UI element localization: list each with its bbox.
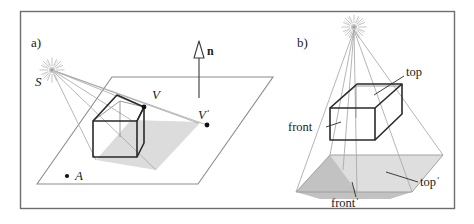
arrow-up-icon-a — [194, 41, 204, 98]
panel-b — [296, 15, 443, 200]
sun-star-icon-b — [342, 15, 367, 40]
vertex-point-Vprime — [205, 123, 210, 128]
wireframe-cube-icon-b — [330, 84, 402, 140]
figure-canvas — [0, 0, 474, 224]
plane-point-A — [65, 174, 69, 178]
vertex-point-V — [142, 105, 147, 110]
sun-star-icon-a — [40, 58, 65, 83]
panel-a — [37, 41, 273, 184]
figure-root: a) S n V Vˈ A b) top front topˈ frontˈ — [0, 0, 474, 224]
cast-shadow-front-lower-icon-b — [296, 192, 412, 199]
